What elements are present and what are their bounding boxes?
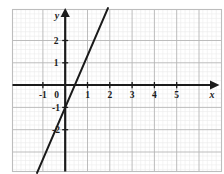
x-tick-label--1: -1 <box>39 90 47 100</box>
y-tick-label--2: -2 <box>52 125 60 135</box>
y-axis-label: y <box>54 10 60 21</box>
x-tick-label-5: 5 <box>174 90 179 100</box>
x-tick-label-4: 4 <box>152 90 157 100</box>
x-tick-label-1: 1 <box>85 90 90 100</box>
y-tick-label-2: 2 <box>54 36 59 46</box>
x-tick-label-0: 0 <box>54 90 59 100</box>
x-tick-label-3: 3 <box>130 90 135 100</box>
x-axis-label: x <box>209 89 215 100</box>
y-tick-label-1: 1 <box>54 58 59 68</box>
graph-canvas: -1 0 1 2 3 4 5 2 1 -1 -2 y x <box>0 0 224 174</box>
x-tick-label-2: 2 <box>107 90 112 100</box>
y-tick-label--1: -1 <box>52 103 60 113</box>
coordinate-graph: -1 0 1 2 3 4 5 2 1 -1 -2 y x <box>0 0 224 174</box>
